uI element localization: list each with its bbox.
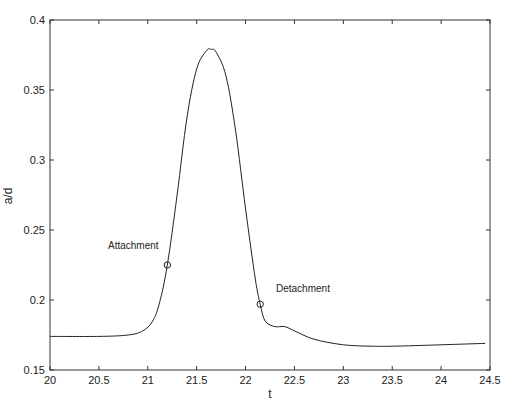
x-tick-label: 24.5 (479, 374, 500, 386)
detachment-label: Detachment (276, 283, 330, 294)
x-tick-label: 20.5 (88, 374, 109, 386)
y-tick-label: 0.3 (30, 154, 45, 166)
chart: 2020.52121.52222.52323.52424.5 0.150.20.… (0, 0, 518, 408)
y-tick-label: 0.2 (30, 294, 45, 306)
x-tick-label: 22 (239, 374, 251, 386)
x-tick-label: 24 (435, 374, 447, 386)
y-tick-label: 0.35 (24, 84, 45, 96)
y-tick-label: 0.4 (30, 14, 45, 26)
y-tick-label: 0.15 (24, 364, 45, 376)
attachment-label: Attachment (108, 240, 159, 251)
x-tick-label: 23 (337, 374, 349, 386)
y-axis-ticks: 0.150.20.250.30.350.4 (24, 14, 490, 376)
y-tick-label: 0.25 (24, 224, 45, 236)
x-tick-label: 22.5 (284, 374, 305, 386)
x-tick-label: 21 (142, 374, 154, 386)
x-tick-label: 20 (44, 374, 56, 386)
x-tick-label: 21.5 (186, 374, 207, 386)
y-axis-label: a/d (1, 188, 15, 205)
x-axis-label: t (268, 387, 272, 401)
axes-frame (50, 20, 490, 370)
x-tick-label: 23.5 (382, 374, 403, 386)
annotation-markers (164, 262, 263, 308)
x-axis-ticks: 2020.52121.52222.52323.52424.5 (44, 20, 501, 386)
data-line (50, 49, 485, 347)
